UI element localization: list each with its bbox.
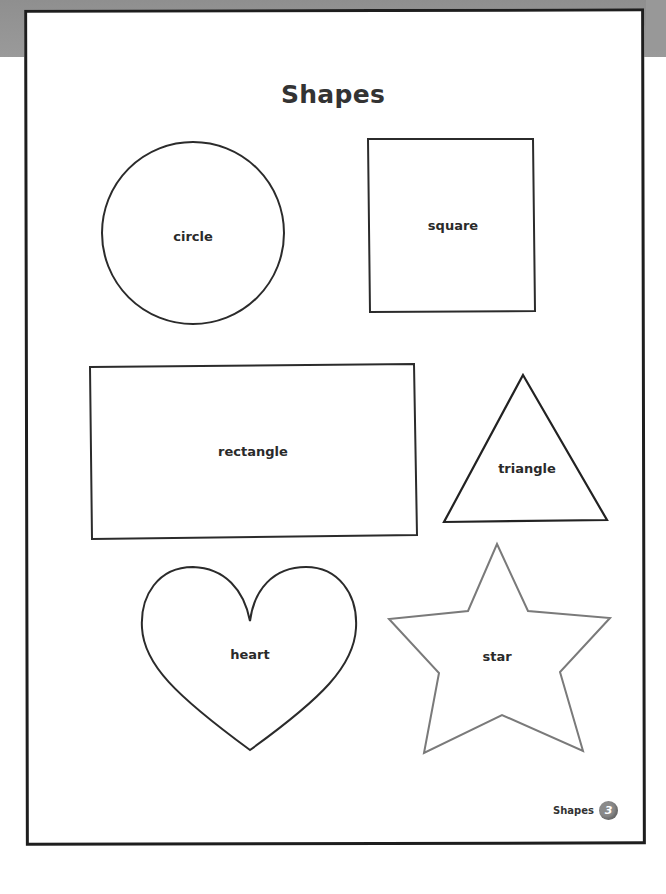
triangle-label: triangle	[498, 461, 556, 476]
shapes-canvas	[0, 0, 666, 894]
rectangle-label: rectangle	[218, 444, 288, 459]
triangle-shape	[444, 375, 607, 522]
footer-section-label: Shapes	[553, 805, 594, 816]
square-label: square	[428, 218, 478, 233]
heart-label: heart	[230, 647, 269, 662]
circle-label: circle	[173, 229, 213, 244]
star-label: star	[482, 649, 511, 664]
page-number-badge: 3	[599, 801, 618, 820]
